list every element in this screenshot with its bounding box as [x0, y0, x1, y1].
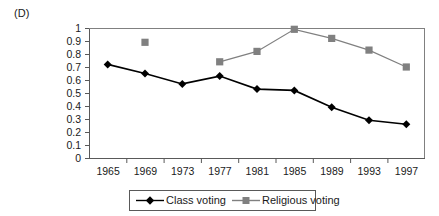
data-point-diamond[interactable] — [104, 60, 112, 68]
y-tick-label: 0.7 — [66, 61, 81, 73]
legend-label-religious-voting: Religious voting — [262, 194, 340, 206]
x-tick-label: 1977 — [208, 165, 232, 177]
x-tick-label: 1969 — [134, 165, 158, 177]
x-tick-label: 1993 — [358, 165, 382, 177]
data-point-square[interactable] — [365, 47, 372, 54]
y-tick-label: 1 — [75, 22, 81, 34]
chart-figure: (D) 0 0.1 0.2 0.3 — [0, 0, 439, 216]
x-tick-label: 1989 — [320, 165, 344, 177]
x-tick-label: 1997 — [395, 165, 419, 177]
x-tick-label: 1973 — [171, 165, 195, 177]
data-point-square[interactable] — [328, 35, 335, 42]
y-tick-marks — [85, 29, 89, 159]
x-tick-label: 1985 — [283, 165, 307, 177]
data-point-square[interactable] — [216, 58, 223, 65]
data-series-layer — [104, 26, 411, 129]
data-point-diamond[interactable] — [141, 70, 149, 78]
y-tick-label: 0.6 — [66, 74, 81, 86]
x-tick-label: 1981 — [246, 165, 270, 177]
data-point-diamond[interactable] — [328, 103, 336, 111]
data-point-diamond[interactable] — [178, 80, 186, 88]
data-point-diamond[interactable] — [290, 86, 298, 94]
x-tick-label: 1965 — [96, 165, 120, 177]
legend-label-class-voting: Class voting — [166, 194, 226, 206]
y-axis-tick-labels: 0 0.1 0.2 0.3 0.4 0.5 0.6 0.7 0.8 0.9 1 — [66, 22, 81, 164]
series-religious-voting — [141, 26, 410, 71]
y-tick-label: 0.8 — [66, 48, 81, 60]
data-point-diamond[interactable] — [216, 72, 224, 80]
y-tick-label: 0.3 — [66, 113, 81, 125]
data-point-diamond[interactable] — [253, 85, 261, 93]
data-point-diamond[interactable] — [402, 120, 410, 128]
y-tick-label: 0.1 — [66, 139, 81, 151]
x-axis-tick-labels: 1965 1969 1973 1977 1981 1985 1989 1993 … — [96, 165, 418, 177]
data-point-square[interactable] — [253, 48, 260, 55]
y-tick-label: 0.4 — [66, 100, 81, 112]
square-marker-icon — [243, 197, 250, 204]
y-tick-label: 0.9 — [66, 35, 81, 47]
axes-frame — [89, 28, 425, 159]
series-line — [108, 64, 407, 124]
data-point-square[interactable] — [291, 26, 298, 33]
data-point-diamond[interactable] — [365, 116, 373, 124]
line-chart-plot: 0 0.1 0.2 0.3 0.4 0.5 0.6 0.7 0.8 0.9 1 … — [0, 0, 439, 216]
data-point-square[interactable] — [403, 63, 410, 70]
chart-legend: Class voting Religious voting — [130, 191, 340, 211]
y-tick-label: 0.2 — [66, 126, 81, 138]
series-line — [220, 29, 407, 67]
y-tick-label: 0 — [75, 152, 81, 164]
series-class-voting — [104, 60, 411, 128]
data-point-square[interactable] — [141, 39, 148, 46]
y-tick-label: 0.5 — [66, 87, 81, 99]
